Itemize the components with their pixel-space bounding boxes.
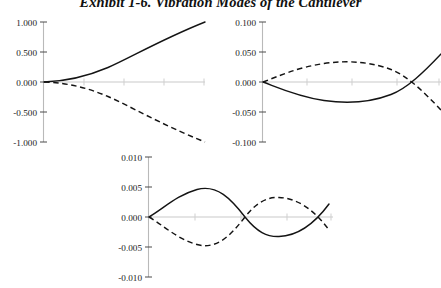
mode-3-dashed-curve (149, 197, 329, 245)
y-tick-label: 1.000 (16, 18, 37, 28)
y-axis-group-1: 1.000 0.500 0.000 -0.500 -1.000 (13, 18, 47, 148)
y-tick-label: 0.100 (235, 18, 256, 28)
chart-mode-1: 1.000 0.500 0.000 -0.500 -1.000 (0, 16, 210, 144)
chart-mode-2: 0.100 0.050 0.000 -0.050 -0.100 (219, 16, 441, 144)
y-tick-label: 0.000 (235, 78, 256, 88)
y-tick-label: -0.050 (232, 108, 256, 118)
mode-3-solid-curve (149, 188, 329, 236)
y-tick-label: 0.000 (16, 78, 37, 88)
y-tick-label: 0.005 (121, 183, 142, 193)
y-tick-label: -0.005 (118, 243, 142, 253)
figure-title: Exhibit 1-6. Vibration Modes of the Cant… (0, 0, 441, 11)
y-tick-label: -1.000 (13, 138, 37, 148)
y-tick-label: -0.100 (232, 138, 256, 148)
y-tick-label: -0.010 (118, 273, 142, 283)
y-tick-label: -0.500 (13, 108, 37, 118)
zero-axis-group-3 (149, 214, 334, 221)
y-axis-group-2: 0.100 0.050 0.000 -0.050 -0.100 (232, 18, 266, 148)
mode-1-dashed-curve (44, 82, 205, 142)
y-tick-label: 0.500 (16, 48, 37, 58)
y-tick-label: 0.010 (121, 153, 142, 163)
y-tick-label: 0.050 (235, 48, 256, 58)
mode-1-solid-curve (44, 22, 205, 82)
chart-mode-3: 0.010 0.005 0.000 -0.005 -0.010 (105, 151, 345, 281)
y-axis-group-3: 0.010 0.005 0.000 -0.005 -0.010 (118, 153, 152, 283)
y-tick-label: 0.000 (121, 213, 142, 223)
